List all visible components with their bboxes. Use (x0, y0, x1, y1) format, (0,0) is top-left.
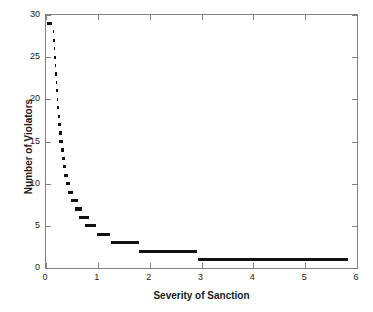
data-marker-run (47, 22, 52, 25)
x-tick-label: 5 (302, 272, 307, 282)
data-marker-run (61, 148, 64, 151)
y-tick-label: 10 (30, 178, 40, 188)
y-tick-right (352, 226, 357, 227)
y-tick-left (46, 15, 51, 16)
data-marker-run (75, 207, 83, 210)
x-tick-label: 1 (94, 272, 99, 282)
data-marker-run (54, 47, 56, 50)
y-tick-right (352, 57, 357, 58)
data-marker-run (62, 157, 65, 160)
x-tick-top (305, 15, 306, 20)
data-marker-run (198, 258, 348, 261)
x-tick-label: 6 (353, 272, 358, 282)
x-tick-top (357, 15, 358, 20)
y-axis-title: Number of Violators (23, 67, 34, 227)
x-tick-top (253, 15, 254, 20)
chart-page: Number of Violators Severity of Sanction… (0, 0, 373, 312)
data-marker-run (111, 241, 140, 244)
x-tick-label: 2 (146, 272, 151, 282)
plot-area (46, 15, 357, 268)
y-tick-right (352, 268, 357, 269)
data-marker-run (63, 165, 67, 168)
x-tick-bottom (98, 263, 99, 268)
plot-frame (45, 14, 358, 269)
data-marker-run (139, 250, 197, 253)
y-tick-label: 30 (30, 9, 40, 19)
y-tick-right (352, 99, 357, 100)
data-marker-run (64, 174, 68, 177)
y-tick-left (46, 226, 51, 227)
y-tick-right (352, 142, 357, 143)
y-tick-left (46, 184, 51, 185)
y-tick-right (352, 15, 357, 16)
x-tick-bottom (253, 263, 254, 268)
x-tick-bottom (357, 263, 358, 268)
data-marker-run (58, 115, 60, 118)
data-marker-run (53, 39, 55, 42)
x-tick-label: 0 (42, 272, 47, 282)
x-axis-title: Severity of Sanction (45, 290, 358, 301)
x-tick-top (150, 15, 151, 20)
data-marker-run (68, 191, 74, 194)
y-tick-left (46, 268, 51, 269)
y-tick-label: 0 (35, 262, 40, 272)
y-tick-label: 5 (35, 220, 40, 230)
data-marker-run (57, 106, 59, 109)
data-marker-run (53, 30, 55, 33)
data-marker-run (59, 131, 62, 134)
y-tick-left (46, 142, 51, 143)
data-marker-run (56, 89, 58, 92)
data-marker-run (55, 64, 57, 67)
data-marker-run (59, 140, 62, 143)
y-tick-right (352, 184, 357, 185)
x-tick-top (202, 15, 203, 20)
data-marker-run (85, 224, 96, 227)
y-tick-left (46, 57, 51, 58)
data-marker-run (54, 56, 56, 59)
x-tick-top (98, 15, 99, 20)
data-marker-run (57, 98, 59, 101)
x-tick-label: 4 (250, 272, 255, 282)
y-tick-left (46, 99, 51, 100)
x-tick-bottom (202, 263, 203, 268)
x-tick-label: 3 (198, 272, 203, 282)
data-marker-run (97, 233, 110, 236)
data-marker-run (71, 199, 78, 202)
y-tick-label: 15 (30, 136, 40, 146)
data-marker-run (66, 182, 71, 185)
data-marker-run (56, 81, 58, 84)
y-tick-label: 25 (30, 51, 40, 61)
y-tick-label: 20 (30, 93, 40, 103)
data-marker-run (79, 216, 88, 219)
data-marker-run (58, 123, 60, 126)
x-tick-bottom (150, 263, 151, 268)
x-tick-bottom (305, 263, 306, 268)
data-marker-run (55, 72, 57, 75)
